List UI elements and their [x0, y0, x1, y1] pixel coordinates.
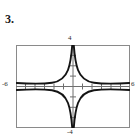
y-axis-max-label: 4: [68, 35, 72, 42]
graph-svg: [16, 45, 130, 128]
figure-container: 3.: [0, 0, 139, 140]
y-axis-min-label: -4: [67, 129, 73, 136]
plot-area: [16, 45, 130, 128]
x-axis-max-label: 6: [131, 81, 135, 88]
x-axis-min-label: -6: [2, 81, 8, 88]
problem-number-label: 3.: [5, 13, 14, 25]
